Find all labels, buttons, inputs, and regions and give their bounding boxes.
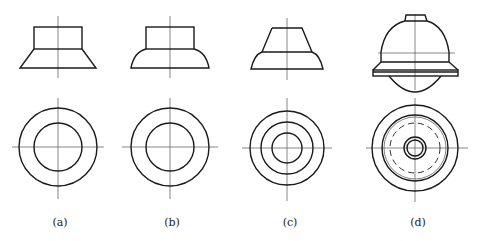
figure-c-top-view (242, 98, 332, 201)
figure-b-top-view (122, 98, 218, 199)
figure-c-front-view (251, 18, 323, 80)
figure-a-top-view (12, 98, 104, 199)
views-drawing (0, 0, 477, 241)
figure-d-label: (d) (410, 216, 426, 229)
figure-b-label: (b) (164, 216, 180, 229)
figure-b-front-view (131, 16, 209, 78)
figure-d-front-view (373, 14, 458, 92)
figure-a-label: (a) (52, 216, 67, 229)
figure-d-top-view (366, 98, 468, 202)
figure-c-label: (c) (283, 216, 298, 229)
figure-a-front-view (20, 16, 96, 78)
